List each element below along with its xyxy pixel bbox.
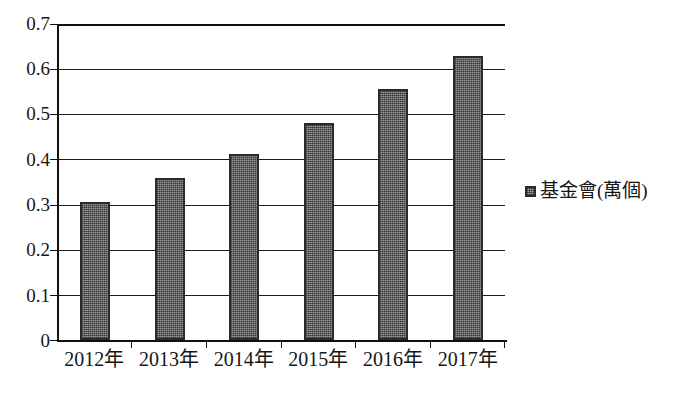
x-axis-tick-label: 2017年 bbox=[430, 346, 505, 376]
x-axis-tick-label: 2015年 bbox=[281, 346, 356, 376]
plot-area bbox=[57, 24, 505, 342]
chart-legend: 基金會(萬個) bbox=[525, 180, 648, 202]
y-axis-tick-label: 0.5 bbox=[4, 104, 50, 123]
filled-square-icon bbox=[525, 186, 536, 197]
bar-2015 bbox=[304, 123, 334, 340]
y-axis-tick-label: 0.4 bbox=[4, 150, 50, 169]
x-axis-tick-label: 2016年 bbox=[356, 346, 431, 376]
y-axis-labels: 0.7 0.6 0.5 0.4 0.3 0.2 0.1 0 bbox=[0, 24, 50, 342]
bars-layer bbox=[57, 24, 505, 342]
bar-2014 bbox=[229, 154, 259, 340]
y-axis-tick-label: 0.7 bbox=[4, 14, 50, 33]
x-axis-labels: 2012年 2013年 2014年 2015年 2016年 2017年 bbox=[57, 346, 505, 376]
y-axis-tick-label: 0.3 bbox=[4, 195, 50, 214]
x-axis-tick-label: 2014年 bbox=[206, 346, 281, 376]
legend-item-label: 基金會(萬個) bbox=[540, 180, 648, 202]
y-axis-tick-label: 0.6 bbox=[4, 59, 50, 78]
x-axis-tick-label: 2013年 bbox=[132, 346, 207, 376]
bar-2016 bbox=[378, 89, 408, 340]
y-axis-tick-label: 0.1 bbox=[4, 286, 50, 305]
bar-2013 bbox=[155, 178, 185, 340]
y-axis-tick-label: 0.2 bbox=[4, 240, 50, 259]
bar-2017 bbox=[453, 56, 483, 340]
y-axis-tick-label: 0 bbox=[4, 331, 50, 350]
x-axis-tick-label: 2012年 bbox=[57, 346, 132, 376]
bar-2012 bbox=[80, 202, 110, 340]
bar-chart: 0.7 0.6 0.5 0.4 0.3 0.2 0.1 0 bbox=[0, 0, 688, 403]
